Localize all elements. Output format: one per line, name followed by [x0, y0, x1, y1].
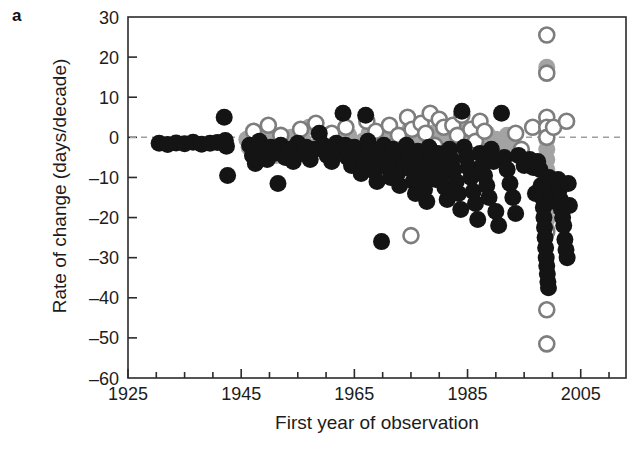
svg-text:20: 20 [99, 48, 119, 68]
svg-text:2005: 2005 [561, 384, 601, 404]
data-point [418, 193, 435, 210]
svg-text:0: 0 [109, 128, 119, 148]
scatter-plot: 3020100–10–20–30–40–50–60192519451965198… [0, 0, 637, 457]
tick-labels: 3020100–10–20–30–40–50–60192519451965198… [89, 8, 601, 405]
data-point [490, 217, 507, 234]
svg-text:–30: –30 [89, 248, 119, 268]
data-point [338, 120, 353, 135]
data-point [218, 138, 235, 155]
svg-text:–40: –40 [89, 288, 119, 308]
data-point [560, 175, 577, 192]
svg-text:1985: 1985 [448, 384, 488, 404]
svg-text:1965: 1965 [334, 384, 374, 404]
data-point [293, 122, 308, 137]
data-point [453, 103, 470, 120]
figure-panel-a: a Rate of change (days/decade) First yea… [0, 0, 637, 457]
data-point [499, 161, 516, 178]
data-point [357, 107, 374, 124]
data-point [487, 203, 504, 220]
data-point [539, 302, 554, 317]
svg-text:30: 30 [99, 8, 119, 28]
data-point [373, 233, 390, 250]
data-point [501, 175, 518, 192]
data-point [539, 28, 554, 43]
data-point [469, 211, 486, 228]
data-point [450, 185, 467, 202]
data-point [559, 114, 574, 129]
data-points [151, 28, 578, 352]
data-point [539, 336, 554, 351]
svg-text:10: 10 [99, 88, 119, 108]
data-point [540, 279, 557, 296]
data-point [508, 126, 523, 141]
data-point [335, 105, 352, 122]
data-point [559, 249, 576, 266]
svg-text:–20: –20 [89, 208, 119, 228]
data-point [561, 197, 578, 214]
data-point [525, 120, 540, 135]
data-point [493, 105, 510, 122]
svg-text:–10: –10 [89, 168, 119, 188]
svg-text:–50: –50 [89, 328, 119, 348]
svg-text:1925: 1925 [108, 384, 148, 404]
data-point [507, 205, 524, 222]
svg-text:1945: 1945 [221, 384, 261, 404]
data-point [269, 175, 286, 192]
data-point [403, 228, 418, 243]
data-point [539, 66, 554, 81]
data-point [477, 124, 492, 139]
data-point [216, 109, 233, 126]
data-point [504, 189, 521, 206]
data-point [452, 201, 469, 218]
data-point [219, 167, 236, 184]
